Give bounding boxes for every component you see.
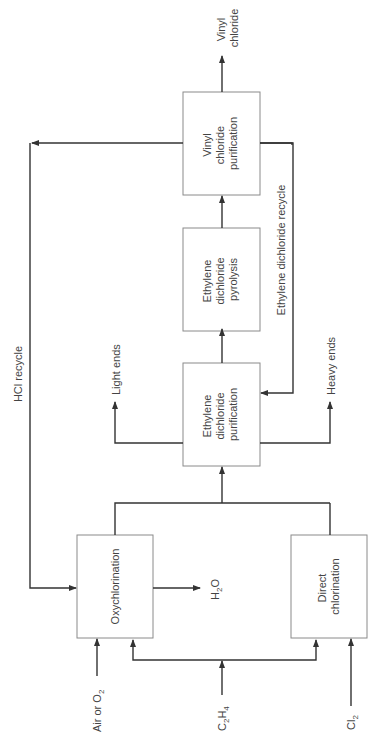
- label-c2h4: C2H4: [216, 706, 231, 731]
- node-edc-purification: Ethylene dichloride purification: [183, 363, 260, 466]
- node-direct-chlorination: Direct chlorination: [291, 535, 367, 638]
- edge-oxy-to-merge: [115, 503, 330, 535]
- edge-heavy-ends: [260, 402, 330, 443]
- label-air-o2: Air or O2: [91, 689, 106, 732]
- edge-hcl-recycle: [30, 143, 76, 588]
- edge-c2h4-to-oxy: [133, 640, 222, 660]
- label-h2o: H2O: [209, 579, 224, 600]
- label-vinyl-chloride-product: Vinyl chloride: [215, 9, 240, 48]
- svg-text:Oxychlorination: Oxychlorination: [109, 549, 121, 625]
- process-flow-diagram: Vinyl chloride purification Ethylene dic…: [0, 0, 380, 744]
- label-light-ends: Light ends: [110, 344, 122, 395]
- label-heavy-ends: Heavy ends: [325, 336, 337, 395]
- node-vinyl-chloride-purification: Vinyl chloride purification: [183, 92, 260, 195]
- node-edc-pyrolysis: Ethylene dichloride pyrolysis: [183, 228, 260, 331]
- label-cl2: Cl2: [345, 715, 360, 730]
- svg-text:Ethylene dichloride: Ethylene dichloride pyrolysis: [201, 254, 239, 304]
- label-hcl-recycle: HCl recycle: [12, 346, 24, 402]
- edge-c2h4-to-direct: [222, 640, 316, 660]
- node-oxychlorination: Oxychlorination: [77, 535, 153, 638]
- edge-light-ends: [115, 402, 183, 443]
- label-edc-recycle: Ethylene dichloride recycle: [275, 185, 287, 316]
- svg-text:Ethylene dichloride: Ethylene dichloride purification: [201, 388, 239, 441]
